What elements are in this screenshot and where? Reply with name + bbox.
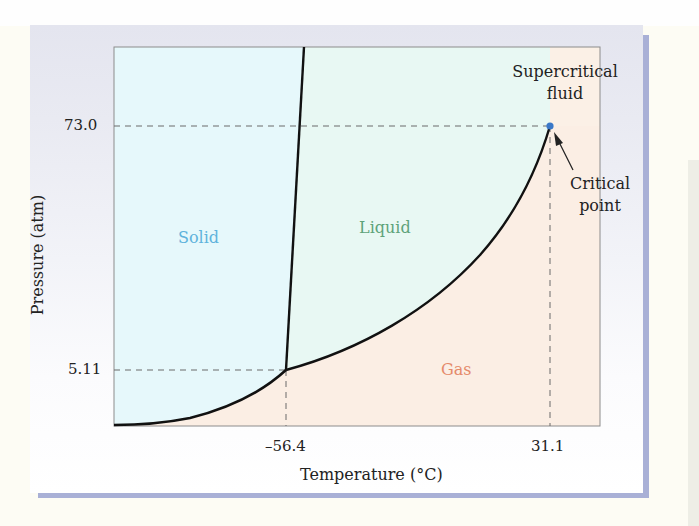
y-tick-73: 73.0 (64, 116, 97, 134)
supercritical-line1: Supercritical (510, 61, 620, 83)
solid-label: Solid (178, 228, 219, 247)
x-tick-31-1: 31.1 (531, 437, 564, 455)
critical-point-label: Critical point (560, 173, 640, 217)
y-axis-title: Pressure (atm) (28, 195, 47, 315)
gas-label: Gas (441, 360, 472, 379)
y-tick-5-11: 5.11 (68, 360, 101, 378)
critical-line1: Critical (560, 173, 640, 195)
liquid-label: Liquid (359, 218, 411, 237)
supercritical-fluid-label: Supercritical fluid (510, 61, 620, 105)
x-axis-title: Temperature (°C) (300, 465, 443, 484)
x-tick-minus-56-4: –56.4 (265, 437, 306, 455)
supercritical-line2: fluid (510, 83, 620, 105)
critical-line2: point (560, 195, 640, 217)
critical-point-marker (546, 122, 553, 129)
